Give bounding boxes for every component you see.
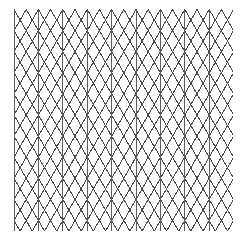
graph-paper-canvas	[0, 0, 248, 243]
canvas-background	[0, 0, 248, 243]
triangular-grid	[0, 0, 248, 243]
